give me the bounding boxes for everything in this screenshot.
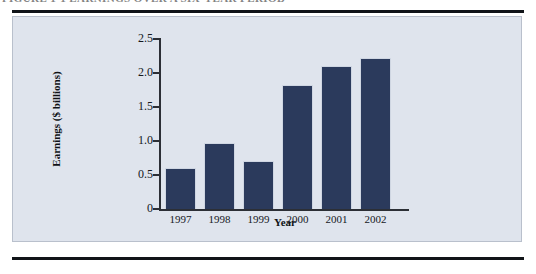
caption-divider-rule: [12, 10, 524, 13]
y-axis-tick-label-wrap: 1.5: [101, 107, 153, 109]
bar-slot: [200, 39, 239, 209]
bar-slot: [356, 39, 395, 209]
y-axis-tick-label-wrap: 2.0: [101, 73, 153, 75]
figure-caption-text: FIGURE 1-1 EARNINGS OVER A SIX-YEAR PERI…: [0, 0, 536, 5]
bottom-divider-rule: [12, 257, 524, 260]
y-axis-tick-mark: [153, 106, 160, 108]
y-axis-tick-mark: [153, 208, 160, 210]
bar-1998: [204, 143, 235, 209]
y-axis-tick-mark: [153, 72, 160, 74]
x-axis-title: Year: [161, 216, 409, 228]
y-axis-tick-label-wrap: 0: [101, 209, 153, 211]
bar-slot: [161, 39, 200, 209]
y-axis-title: Earnings ($ billions): [50, 29, 62, 209]
y-axis-tick-label-wrap: 1.0: [101, 141, 153, 143]
figure-caption: FIGURE 1-1 EARNINGS OVER A SIX-YEAR PERI…: [0, 0, 536, 9]
x-axis-line: [159, 209, 409, 211]
y-axis-tick-label: 0: [113, 201, 153, 216]
bar-slot: [317, 39, 356, 209]
y-axis-tick-label: 2.5: [113, 31, 153, 46]
bar-slot: [239, 39, 278, 209]
y-axis-tick-label: 2.0: [113, 65, 153, 80]
y-axis-tick-label-wrap: 0.5: [101, 175, 153, 177]
y-axis-tick-label: 0.5: [113, 167, 153, 182]
y-axis-tick-label: 1.0: [113, 133, 153, 148]
bar-2002: [360, 58, 391, 209]
y-axis-tick-label-wrap: 2.5: [101, 39, 153, 41]
y-axis-tick-mark: [153, 140, 160, 142]
bar-2000: [282, 85, 313, 209]
bar-1999: [243, 161, 274, 209]
bar-series: 199719981999200020012002: [161, 39, 409, 209]
y-axis-tick-mark: [153, 38, 160, 40]
bar-2001: [321, 66, 352, 209]
bar-1997: [165, 168, 196, 209]
y-axis-tick-mark: [153, 174, 160, 176]
bar-slot: [278, 39, 317, 209]
chart-panel: 00.51.01.52.02.5 Earnings ($ billions) 1…: [12, 16, 522, 242]
y-axis-tick-label: 1.5: [113, 99, 153, 114]
